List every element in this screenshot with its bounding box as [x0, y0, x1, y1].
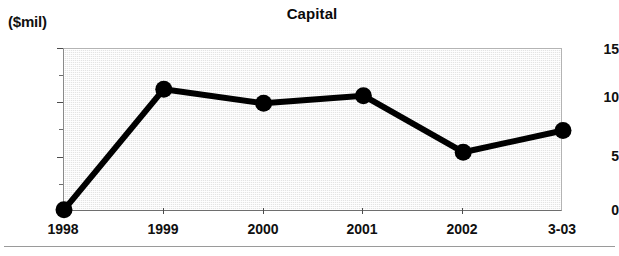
- x-tick-label-3-03: 3-03: [520, 222, 604, 236]
- data-point-2000: [255, 95, 272, 112]
- x-tick-label-2002: 2002: [420, 222, 504, 236]
- chart-title: Capital: [62, 5, 562, 22]
- capital-line: [64, 89, 563, 210]
- x-tick-mark-2000: [263, 208, 264, 214]
- x-tick-mark-1999: [163, 208, 164, 214]
- x-tick-mark-2001: [362, 208, 363, 214]
- footer-divider: [4, 246, 615, 247]
- x-tick-label-2000: 2000: [221, 222, 305, 236]
- y-tick-label-5: 5: [573, 149, 619, 163]
- y-tick-label-0: 0: [573, 203, 619, 217]
- chart-figure: ($mil) Capital 15 10 5 0 1998 1999 2000 …: [0, 0, 619, 256]
- x-tick-label-1999: 1999: [121, 222, 205, 236]
- data-point-2001: [355, 87, 372, 104]
- data-point-1998: [56, 201, 73, 218]
- x-tick-mark-2002: [462, 208, 463, 214]
- x-tick-label-1998: 1998: [21, 222, 105, 236]
- x-tick-label-2001: 2001: [320, 222, 404, 236]
- data-point-1999: [155, 81, 172, 98]
- data-point-2002: [455, 144, 472, 161]
- data-series-capital: [64, 49, 563, 212]
- data-point-3-03: [555, 122, 572, 139]
- y-axis-unit-label: ($mil): [8, 13, 47, 30]
- plot-area: [63, 48, 562, 211]
- y-tick-label-10: 10: [573, 90, 619, 104]
- y-tick-label-15: 15: [573, 42, 619, 56]
